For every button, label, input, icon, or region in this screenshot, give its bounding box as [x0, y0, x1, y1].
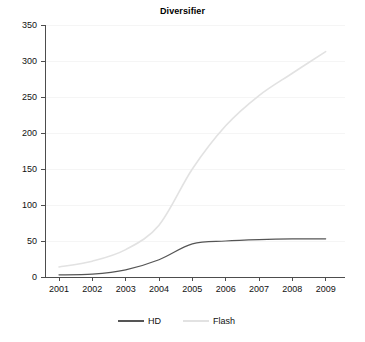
line-chart-plot: 050100150200250300350 200120022003200420… [0, 0, 365, 342]
legend-label-flash: Flash [213, 316, 235, 326]
x-tick-label: 2003 [116, 284, 136, 294]
legend-label-hd: HD [148, 316, 161, 326]
series-line-flash [59, 52, 326, 267]
y-tick-label: 0 [32, 272, 37, 282]
x-tick-label: 2001 [49, 284, 69, 294]
x-tick-label: 2006 [216, 284, 236, 294]
series-line-hd [59, 239, 326, 275]
x-tick-label: 2007 [249, 284, 269, 294]
x-tick-label: 2009 [316, 284, 336, 294]
y-tick-label: 50 [27, 236, 37, 246]
y-tick-label: 300 [22, 56, 37, 66]
x-tick-label: 2004 [149, 284, 169, 294]
y-axis-ticks: 050100150200250300350 [22, 20, 45, 282]
x-tick-label: 2002 [82, 284, 102, 294]
x-axis-ticks: 200120022003200420052006200720082009 [49, 277, 336, 294]
y-tick-label: 250 [22, 92, 37, 102]
y-tick-label: 150 [22, 164, 37, 174]
x-tick-label: 2008 [282, 284, 302, 294]
chart-container: Diversifier 050100150200250300350 200120… [0, 0, 365, 342]
y-tick-label: 200 [22, 128, 37, 138]
chart-legend: HDFlash [118, 316, 235, 326]
x-tick-label: 2005 [182, 284, 202, 294]
y-tick-label: 100 [22, 200, 37, 210]
y-tick-label: 350 [22, 20, 37, 30]
